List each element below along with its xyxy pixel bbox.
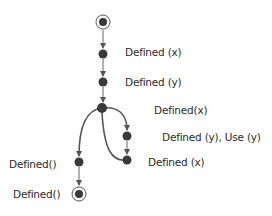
label-n6: Defined() (9, 158, 56, 170)
branch-node-n3 (97, 103, 107, 113)
initial-node (96, 15, 110, 29)
label-n4: Defined (y), Use (y) (162, 131, 261, 143)
label-n3: Defined(x) (154, 104, 207, 116)
action-node-n6 (75, 158, 84, 167)
action-node-n1 (99, 50, 108, 59)
label-end: Defined() (13, 188, 60, 200)
action-node-n2 (99, 78, 108, 87)
control-flow-diagram (0, 0, 272, 216)
label-n1: Defined (x) (125, 46, 181, 58)
action-node-n4 (123, 132, 132, 141)
label-n2: Defined (y) (125, 76, 181, 88)
edge-n3-n6 (79, 108, 102, 156)
label-n5: Defined (x) (148, 156, 204, 168)
final-node (72, 187, 86, 201)
action-node-n5 (123, 156, 132, 165)
